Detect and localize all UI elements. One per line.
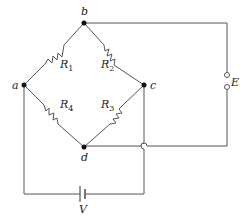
label-E: E [230, 76, 239, 89]
label-R1: R1 [59, 58, 73, 73]
terminal-E-top [225, 73, 230, 78]
label-a: a [12, 79, 19, 92]
node-c [142, 83, 147, 88]
arm-c-d [84, 85, 144, 147]
node-d [82, 145, 87, 150]
label-d: d [81, 151, 88, 164]
label-b: b [81, 5, 88, 18]
label-R3: R3 [100, 98, 114, 113]
arm-a-d [24, 85, 84, 147]
terminal-E-bottom [225, 85, 230, 90]
bridge-circuit-diagram: b a c d R1 R2 R3 R4 E V [0, 0, 250, 223]
arm-a-b [24, 23, 84, 85]
label-c: c [150, 79, 156, 92]
label-R4: R4 [59, 98, 73, 113]
wire-battery-to-c [85, 85, 144, 194]
battery-icon [80, 186, 85, 202]
arm-b-c [84, 23, 144, 85]
node-a [22, 83, 27, 88]
wire-a-to-battery [24, 85, 80, 194]
label-V: V [79, 203, 88, 216]
node-b [82, 21, 87, 26]
